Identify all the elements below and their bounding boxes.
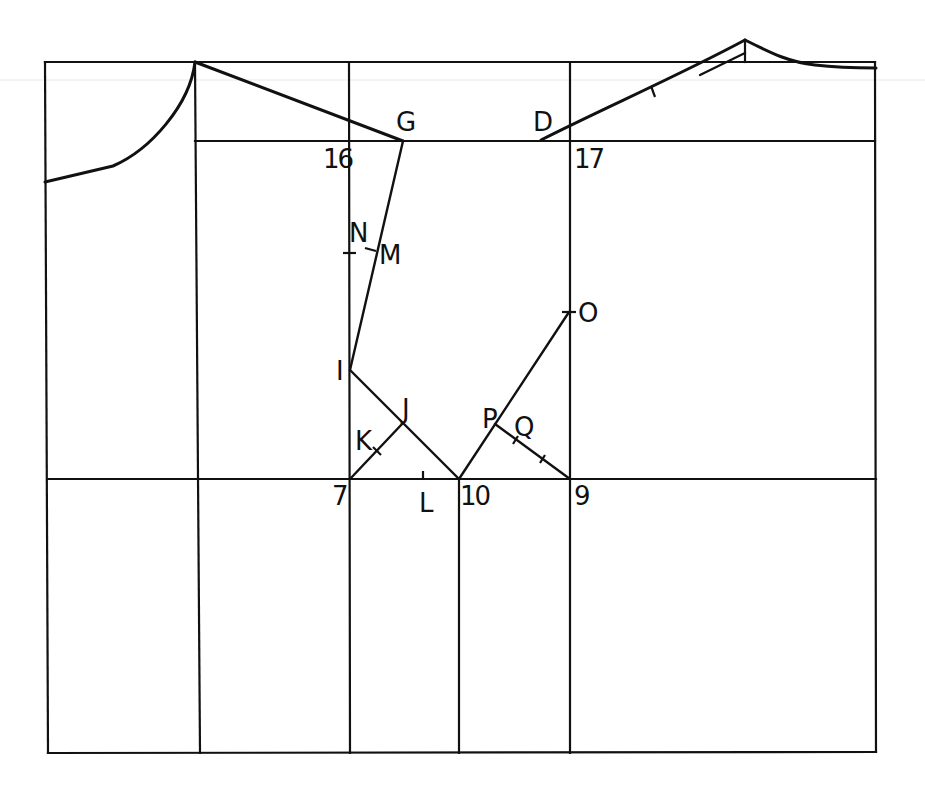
label-I: I: [336, 356, 342, 386]
label-G: G: [396, 107, 415, 137]
label-16: 16: [323, 144, 353, 174]
neck-curve: [745, 40, 876, 68]
label-N: N: [349, 218, 366, 248]
pattern-diagram: G D 16 17 N M O I J K P Q 7 L 10 9: [0, 0, 925, 789]
label-P: P: [482, 404, 497, 434]
label-7: 7: [332, 481, 347, 511]
line-10-O: [459, 312, 569, 479]
label-J: J: [400, 394, 408, 424]
shoulder-tick: [651, 86, 655, 97]
line-P-9: [495, 424, 570, 479]
vertical-guides: [195, 62, 570, 753]
horizontal-guides: [48, 141, 876, 479]
label-17: 17: [574, 144, 604, 174]
label-M: M: [379, 240, 399, 270]
label-O: O: [578, 298, 597, 328]
shoulder-line: [195, 62, 403, 141]
front-shoulder-inner: [700, 53, 745, 75]
label-K: K: [355, 426, 373, 456]
label-9: 9: [574, 481, 589, 511]
label-Q: Q: [514, 412, 533, 442]
label-10: 10: [460, 481, 490, 511]
front-shoulder-line: [541, 40, 745, 140]
line-N-M: [365, 248, 376, 251]
label-D: D: [533, 107, 552, 137]
outer-frame: [45, 62, 876, 753]
label-L: L: [419, 488, 434, 518]
